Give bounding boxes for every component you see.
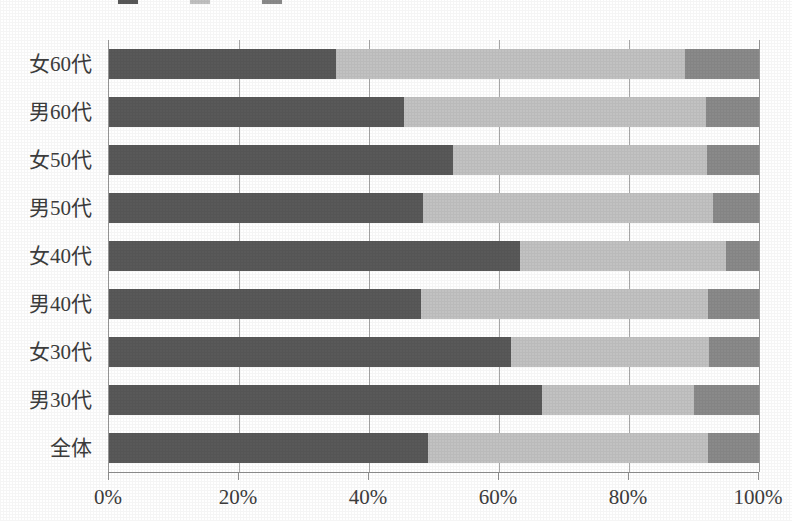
y-axis-tick-label: 女40代 <box>29 246 92 267</box>
chart-legend <box>118 0 738 7</box>
bar-segment <box>511 337 709 367</box>
legend-entry <box>190 0 216 4</box>
y-axis-tick-label: 女30代 <box>29 342 92 363</box>
bar-row <box>109 145 759 175</box>
x-axis-tick-label: 20% <box>219 487 258 508</box>
bar-segment <box>421 289 708 319</box>
x-axis-tick-label: 60% <box>479 487 518 508</box>
bar-segment <box>109 97 404 127</box>
bar-row <box>109 433 759 463</box>
x-axis-line <box>108 472 759 473</box>
bar-segment <box>726 241 759 271</box>
bar-segment <box>708 289 759 319</box>
y-axis-labels: 女60代男60代女50代男50代女40代男40代女30代男30代全体 <box>0 40 100 472</box>
bar-segment <box>109 385 542 415</box>
plot-area <box>108 40 760 472</box>
bar-segment <box>109 289 421 319</box>
legend-swatch <box>190 0 210 4</box>
bar-segment <box>428 433 708 463</box>
bar-segment <box>694 385 759 415</box>
y-axis-tick-label: 男30代 <box>29 390 92 411</box>
bar-segment <box>423 193 713 223</box>
legend-swatch <box>118 0 138 4</box>
x-axis-tick <box>238 472 239 480</box>
y-axis-tick-label: 女50代 <box>29 150 92 171</box>
legend-entry <box>118 0 144 4</box>
x-axis-tick <box>498 472 499 480</box>
bar-segment <box>542 385 694 415</box>
bar-segment <box>109 145 453 175</box>
legend-entry <box>262 0 288 4</box>
bar-segment <box>713 193 759 223</box>
bar-segment <box>685 49 759 79</box>
legend-swatch <box>262 0 282 4</box>
x-axis-tick-label: 40% <box>349 487 388 508</box>
bar-row <box>109 289 759 319</box>
bar-segment <box>709 337 759 367</box>
bar-segment <box>336 49 685 79</box>
bar-row <box>109 49 759 79</box>
bar-series-group <box>109 40 759 472</box>
bar-row <box>109 193 759 223</box>
y-axis-tick-label: 全体 <box>50 438 92 459</box>
x-axis-tick <box>758 472 759 480</box>
bar-segment <box>706 97 759 127</box>
bar-segment <box>109 337 511 367</box>
bar-segment <box>109 241 520 271</box>
x-axis-labels: 0%20%40%60%80%100% <box>0 487 792 517</box>
stacked-bar-chart: 女60代男60代女50代男50代女40代男40代女30代男30代全体 0%20%… <box>0 0 792 521</box>
y-axis-tick-label: 男60代 <box>29 102 92 123</box>
y-axis-tick-label: 男50代 <box>29 198 92 219</box>
bar-segment <box>404 97 706 127</box>
bar-row <box>109 241 759 271</box>
x-axis-tick <box>628 472 629 480</box>
bar-segment <box>109 49 336 79</box>
x-axis-tick-label: 80% <box>609 487 648 508</box>
y-axis-tick-label: 男40代 <box>29 294 92 315</box>
bar-row <box>109 337 759 367</box>
x-axis-tick <box>368 472 369 480</box>
bar-segment <box>707 145 759 175</box>
y-axis-tick-label: 女60代 <box>29 54 92 75</box>
x-axis-tick <box>108 472 109 480</box>
bar-segment <box>708 433 759 463</box>
bar-row <box>109 97 759 127</box>
bar-segment <box>109 433 428 463</box>
bar-segment <box>453 145 707 175</box>
x-axis-tick-label: 0% <box>94 487 122 508</box>
bar-segment <box>109 193 423 223</box>
bar-row <box>109 385 759 415</box>
bar-segment <box>520 241 726 271</box>
x-axis-tick-label: 100% <box>734 487 783 508</box>
